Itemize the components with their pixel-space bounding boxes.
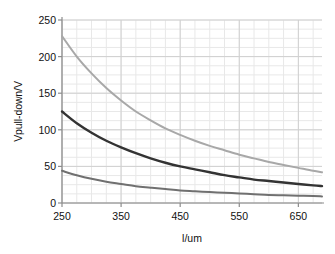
series-line-middle-curve [62,112,322,187]
plot-area [0,0,335,254]
x-axis-title: l/um [62,232,322,244]
chart-container: Vpull-down/V 0 50 100 150 200 250 250 35… [0,0,335,254]
grid-minor [62,20,322,203]
data-series-group [62,36,322,196]
